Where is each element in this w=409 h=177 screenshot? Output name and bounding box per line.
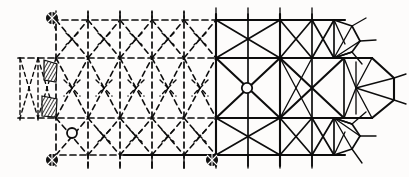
vault-plan-figure: Gothic church vault rib plan: [0, 0, 409, 177]
dark-pier-marker-s-crossing[interactable]: [207, 154, 218, 166]
open-pier-marker-west[interactable]: [67, 128, 77, 138]
solid-border-ticks: [152, 8, 312, 168]
floor-plan-drawing: [0, 0, 409, 177]
dashed-rib-crosslets-row1: [66, 33, 206, 45]
nave-dashed-zone: [18, 11, 218, 168]
solid-ribs-upper-aisle: [216, 20, 334, 58]
open-pier-marker-crossing[interactable]: [242, 83, 252, 93]
hatched-wall-fragment-upper: [44, 60, 57, 82]
hatched-wall-fragment-lower: [42, 96, 57, 117]
dashed-rib-crosslets-row2: [64, 80, 208, 96]
dark-pier-marker-nw[interactable]: [47, 12, 58, 24]
dark-pier-marker-sw[interactable]: [47, 154, 58, 166]
apse-main-east: [344, 58, 406, 118]
pier-markers: [42, 12, 252, 166]
solid-ribs-lower-aisle: [216, 118, 334, 155]
dashed-horizontal-lines: [18, 20, 218, 155]
